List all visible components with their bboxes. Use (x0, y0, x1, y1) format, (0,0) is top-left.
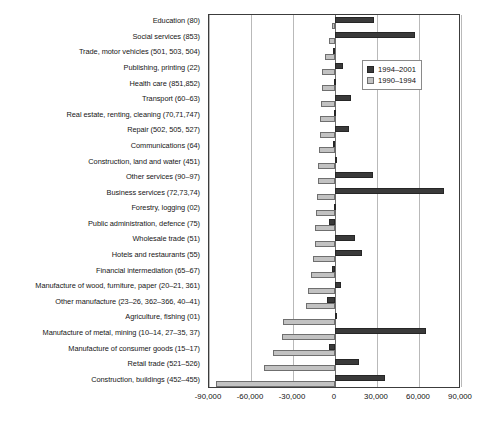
bar-series-1990-1994 (311, 272, 335, 278)
category-label: Communications (64) (0, 142, 200, 150)
bar-series-1990-1994 (308, 288, 335, 294)
x-axis: -90,000-60,000-30,000030,00060,00090,000 (208, 392, 460, 406)
category-label: Wholesale trade (51) (0, 235, 200, 243)
bar-series-1994-2001 (335, 95, 351, 101)
x-tick-label: 90,000 (448, 392, 472, 402)
bar-series-1990-1994 (320, 116, 335, 122)
bar-series-1990-1994 (273, 350, 335, 356)
bar-series-1990-1994 (321, 101, 335, 107)
bar-series-1990-1994 (316, 210, 335, 216)
gridline (293, 15, 294, 387)
bar-series-1990-1994 (325, 54, 335, 60)
category-label: Public administration, defence (75) (0, 220, 200, 228)
bar-series-1990-1994 (264, 365, 335, 371)
category-label: Financial intermediation (65–67) (0, 267, 200, 275)
legend-swatch-icon (367, 77, 374, 84)
category-label-column: Education (80)Social services (853)Trade… (0, 14, 204, 388)
category-label: Business services (72,73,74) (0, 189, 200, 197)
plot-area (208, 14, 460, 388)
bar-series-1990-1994 (319, 147, 335, 153)
gridline (209, 15, 210, 387)
x-tick-label: 30,000 (364, 392, 388, 402)
bar-series-1994-2001 (335, 359, 359, 365)
legend-swatch-icon (367, 66, 374, 73)
bar-series-1990-1994 (329, 38, 335, 44)
category-label: Real estate, renting, cleaning (70,71,74… (0, 111, 200, 119)
category-label: Construction, buildings (452–455) (0, 376, 200, 384)
category-label: Social services (853) (0, 33, 200, 41)
bar-series-1990-1994 (282, 334, 335, 340)
legend-item: 1990–1994 (367, 75, 416, 86)
bar-series-1990-1994 (318, 178, 336, 184)
category-label: Trade, motor vehicles (501, 503, 504) (0, 48, 200, 56)
category-label: Construction, land and water (451) (0, 158, 200, 166)
category-label: Repair (502, 505, 527) (0, 126, 200, 134)
category-label: Agriculture, fishing (01) (0, 313, 200, 321)
bar-series-1994-2001 (335, 188, 444, 194)
x-tick-label: -60,000 (237, 392, 263, 402)
bar-series-1994-2001 (335, 282, 341, 288)
category-label: Forestry, logging (02) (0, 204, 200, 212)
bar-series-1990-1994 (306, 303, 335, 309)
category-label: Manufacture of metal, mining (10–14, 27–… (0, 329, 200, 337)
category-label: Manufacture of wood, furniture, paper (2… (0, 282, 200, 290)
category-label: Publishing, printing (22) (0, 64, 200, 72)
bar-series-1994-2001 (335, 126, 349, 132)
chart-legend: 1994–20011990–1994 (362, 60, 422, 90)
bar-series-1994-2001 (335, 235, 355, 241)
x-tick-label: 0 (332, 392, 336, 402)
bar-chart: Education (80)Social services (853)Trade… (0, 0, 483, 431)
bar-series-1990-1994 (317, 194, 335, 200)
bar-series-1990-1994 (313, 256, 335, 262)
bar-series-1994-2001 (335, 313, 337, 319)
bar-series-1990-1994 (315, 225, 335, 231)
category-label: Health care (851,852) (0, 80, 200, 88)
bar-series-1990-1994 (283, 319, 335, 325)
legend-label: 1990–1994 (378, 76, 416, 85)
bar-series-1990-1994 (318, 163, 335, 169)
bar-series-1994-2001 (335, 375, 385, 381)
bar-series-1994-2001 (335, 32, 415, 38)
bar-series-1990-1994 (315, 241, 335, 247)
bar-series-1990-1994 (332, 23, 335, 29)
category-label: Manufacture of consumer goods (15–17) (0, 345, 200, 353)
legend-item: 1994–2001 (367, 64, 416, 75)
bar-series-1990-1994 (322, 85, 335, 91)
bar-series-1994-2001 (335, 328, 426, 334)
category-label: Other manufacture (23–26, 362–366, 40–41… (0, 298, 200, 306)
category-label: Other services (90–97) (0, 173, 200, 181)
x-tick-label: 60,000 (406, 392, 430, 402)
bar-series-1990-1994 (322, 69, 335, 75)
bar-series-1994-2001 (335, 63, 343, 69)
bar-series-1994-2001 (335, 17, 374, 23)
bar-series-1994-2001 (335, 157, 337, 163)
x-tick-label: -90,000 (195, 392, 221, 402)
bar-series-1990-1994 (320, 132, 335, 138)
category-label: Transport (60–63) (0, 95, 200, 103)
category-label: Hotels and restaurants (55) (0, 251, 200, 259)
x-tick-label: -30,000 (279, 392, 305, 402)
gridline (461, 15, 462, 387)
category-label: Education (80) (0, 17, 200, 25)
legend-label: 1994–2001 (378, 65, 416, 74)
gridline (251, 15, 252, 387)
category-label: Retail trade (521–526) (0, 360, 200, 368)
bar-series-1994-2001 (335, 172, 373, 178)
bar-series-1990-1994 (216, 381, 335, 387)
bar-series-1994-2001 (335, 250, 362, 256)
